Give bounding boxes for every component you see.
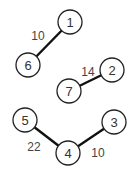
node-label: 4 — [64, 146, 71, 161]
edge-weight-label: 10 — [31, 29, 45, 43]
node-1: 1 — [58, 10, 82, 34]
node-label: 7 — [65, 84, 72, 99]
node-7: 7 — [57, 79, 81, 103]
edge-weight-label: 22 — [27, 140, 41, 154]
edge-weight-label: 10 — [91, 146, 105, 160]
weighted-graph-diagram: 10142210 1627534 — [0, 0, 137, 175]
node-label: 2 — [108, 63, 115, 78]
node-6: 6 — [16, 53, 40, 77]
edge-weight-label: 14 — [81, 65, 95, 79]
node-4: 4 — [56, 141, 80, 165]
node-label: 3 — [110, 115, 117, 130]
node-label: 1 — [66, 15, 73, 30]
node-5: 5 — [13, 108, 37, 132]
node-3: 3 — [102, 110, 126, 134]
node-label: 5 — [21, 113, 28, 128]
node-2: 2 — [100, 58, 124, 82]
node-label: 6 — [24, 58, 31, 73]
